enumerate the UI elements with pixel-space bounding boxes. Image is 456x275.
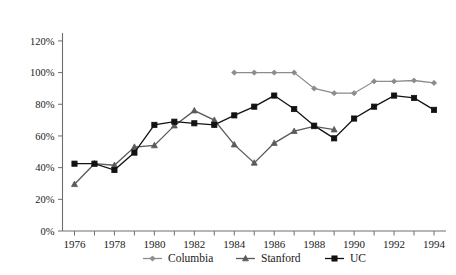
- x-tick-label: 1978: [103, 238, 126, 250]
- y-tick-label: 120%: [30, 36, 55, 47]
- y-tick-label: 0%: [41, 226, 55, 237]
- data-point: [332, 136, 337, 141]
- data-point: [232, 70, 237, 75]
- data-point: [252, 70, 257, 75]
- data-point: [92, 161, 97, 166]
- y-tick-label: 60%: [35, 131, 55, 142]
- legend-label: UC: [350, 252, 366, 264]
- series-stanford: [72, 107, 338, 186]
- data-point: [272, 70, 277, 75]
- x-tick-label: 1994: [423, 238, 446, 250]
- data-point: [431, 107, 436, 112]
- y-axis-ticks: [58, 41, 63, 231]
- x-tick-label: 1990: [343, 238, 366, 250]
- data-point: [332, 91, 337, 96]
- legend-item-stanford[interactable]: Stanford: [236, 252, 301, 264]
- x-tick-label: 1980: [143, 238, 166, 250]
- series-columbia: [232, 70, 437, 96]
- data-point: [391, 93, 396, 98]
- y-axis-tick-labels: 0%20%40%60%80%100%120%: [30, 36, 55, 237]
- chart-canvas: 0%20%40%60%80%100%120% 19761978198019821…: [0, 0, 456, 275]
- data-point: [112, 167, 117, 172]
- data-point: [132, 150, 137, 155]
- data-point: [371, 104, 376, 109]
- x-tick-label: 1992: [383, 238, 405, 250]
- series-line: [74, 111, 334, 185]
- x-tick-label: 1982: [183, 238, 205, 250]
- y-axis-group: 0%20%40%60%80%100%120%: [30, 33, 63, 237]
- data-point: [411, 78, 416, 83]
- x-tick-label: 1976: [63, 238, 86, 250]
- data-point: [72, 161, 77, 166]
- data-point: [272, 93, 277, 98]
- data-series-group: [72, 70, 437, 187]
- chart-legend: ColumbiaStanfordUC: [143, 252, 366, 264]
- legend-marker-square-icon: [332, 256, 337, 261]
- legend-item-uc[interactable]: UC: [325, 252, 366, 264]
- data-point: [212, 122, 217, 127]
- data-point: [411, 95, 416, 100]
- data-point: [192, 121, 197, 126]
- data-point: [152, 122, 157, 127]
- x-tick-label: 1988: [303, 238, 326, 250]
- x-axis-ticks: [74, 231, 434, 236]
- legend-marker-diamond-icon: [150, 256, 155, 261]
- data-point: [172, 119, 177, 124]
- x-tick-label: 1984: [223, 238, 246, 250]
- legend-item-columbia[interactable]: Columbia: [143, 252, 213, 264]
- data-point: [391, 79, 396, 84]
- data-point: [312, 123, 317, 128]
- data-point: [232, 113, 237, 118]
- line-chart: 0%20%40%60%80%100%120% 19761978198019821…: [0, 0, 456, 275]
- y-tick-label: 40%: [35, 162, 55, 173]
- data-point: [292, 106, 297, 111]
- x-tick-label: 1986: [263, 238, 286, 250]
- x-axis-group: 1976197819801982198419861988199019921994: [63, 231, 447, 250]
- data-point: [252, 104, 257, 109]
- legend-label: Columbia: [168, 252, 213, 264]
- y-tick-label: 20%: [35, 194, 55, 205]
- x-axis-tick-labels: 1976197819801982198419861988199019921994: [63, 238, 445, 250]
- legend-label: Stanford: [261, 252, 301, 264]
- y-tick-label: 100%: [30, 67, 55, 78]
- y-tick-label: 80%: [35, 99, 55, 110]
- data-point: [431, 80, 436, 85]
- data-point: [191, 107, 197, 113]
- data-point: [352, 116, 357, 121]
- data-point: [271, 140, 277, 146]
